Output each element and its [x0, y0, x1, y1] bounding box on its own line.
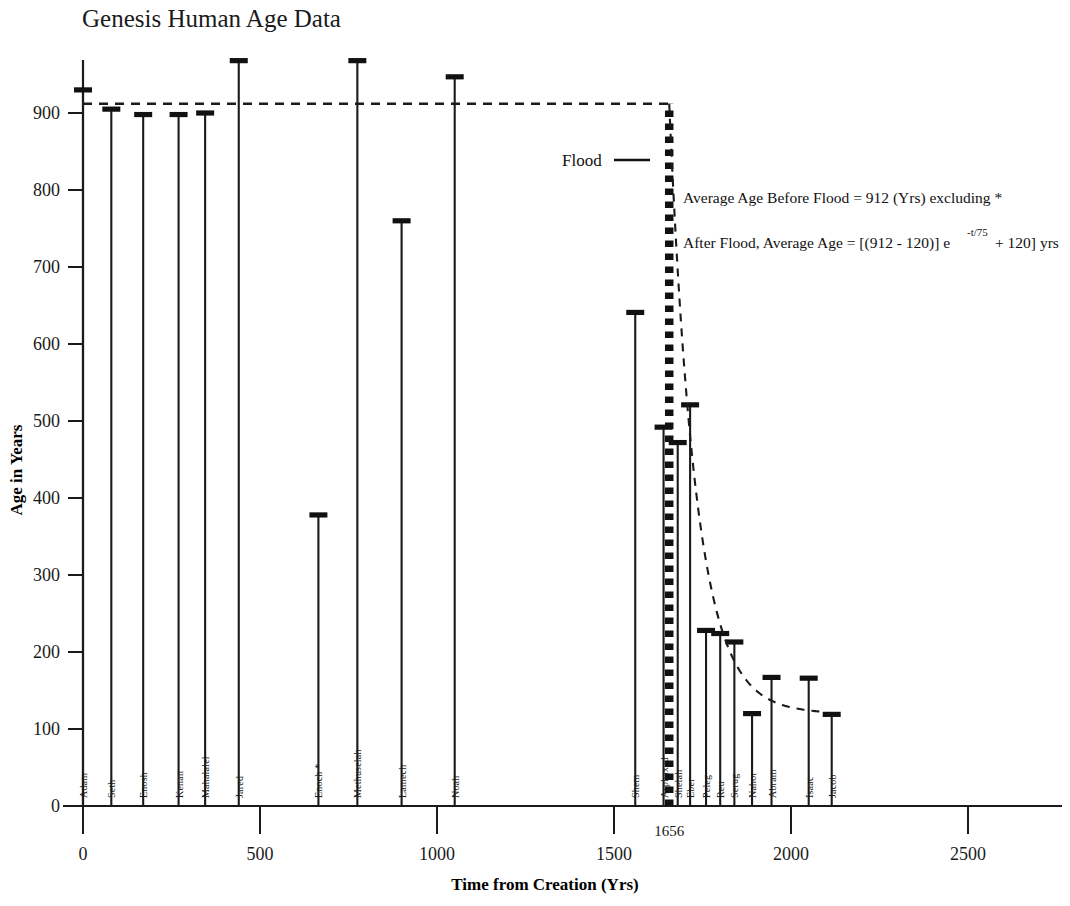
- bar-label: Jared: [234, 776, 245, 798]
- y-tick-label: 800: [33, 180, 60, 200]
- x-tick-label: 0: [79, 844, 88, 864]
- after-flood-formula: After Flood, Average Age = [(912 - 120)]…: [683, 226, 1059, 252]
- x-axis-title: Time from Creation (Yrs): [451, 875, 638, 894]
- bar-label: Seth: [106, 779, 117, 798]
- flood-annotation: Flood: [562, 151, 650, 170]
- average-age-note: Average Age Before Flood = 912 (Yrs) exc…: [683, 189, 1002, 207]
- bar-label: Jacob: [827, 774, 838, 798]
- x-tick-label: 1000: [419, 844, 455, 864]
- bar-label: Nahor: [747, 772, 758, 798]
- reference-lines: [83, 104, 669, 806]
- formula-exponent: -t/75: [967, 226, 988, 238]
- y-tick-label: 100: [33, 719, 60, 739]
- y-tick-label: 300: [33, 565, 60, 585]
- y-tick-label: 700: [33, 257, 60, 277]
- y-tick-label: 600: [33, 334, 60, 354]
- x-axis-ticks: 050010001500200025001656: [79, 806, 987, 864]
- flood-label: Flood: [562, 151, 602, 170]
- x-tick-label: 1500: [596, 844, 632, 864]
- y-axis-title: Age in Years: [7, 424, 26, 515]
- bar-label: Shem: [630, 774, 641, 798]
- x-tick-label: 2000: [773, 844, 809, 864]
- bar-label: Abram: [767, 769, 778, 798]
- bar-label: Reu: [715, 781, 726, 798]
- bar-label: Lamech: [397, 765, 408, 798]
- y-tick-label: 200: [33, 642, 60, 662]
- bar-label: Methuselah: [352, 749, 363, 798]
- bar-label: Noah: [450, 776, 461, 798]
- bar-label: Shelah: [673, 770, 684, 798]
- bar-label: Enosh: [138, 772, 149, 798]
- genesis-age-chart: Genesis Human Age Data Age in Years Time…: [0, 0, 1070, 906]
- x-tick-label-flood-year: 1656: [654, 823, 685, 839]
- bar-label: Serug: [729, 774, 740, 798]
- bar-label: Kenan: [174, 771, 185, 798]
- bar-label: Peleg: [701, 775, 712, 798]
- bar-label: Eber: [685, 778, 696, 798]
- x-tick-label: 2500: [950, 844, 986, 864]
- y-tick-label: 0: [51, 796, 60, 816]
- formula-tail: + 120] yrs: [995, 234, 1059, 251]
- bar-label: Mahalalel: [200, 756, 211, 798]
- y-axis-ticks: 0100200300400500600700800900: [33, 103, 83, 816]
- bar-series: [74, 61, 841, 806]
- y-tick-label: 900: [33, 103, 60, 123]
- bar-labels: AdamSethEnoshKenanMahalalelJaredEnoch *M…: [78, 749, 838, 798]
- chart-title: Genesis Human Age Data: [82, 5, 341, 32]
- x-tick-label: 500: [247, 844, 274, 864]
- bar-label: Isaac: [804, 776, 815, 798]
- formula-lead: After Flood, Average Age = [(912 - 120)]…: [683, 234, 950, 252]
- y-tick-label: 400: [33, 488, 60, 508]
- y-tick-label: 500: [33, 411, 60, 431]
- bar-label: Enoch *: [313, 764, 324, 798]
- bar-label: Adam: [78, 773, 89, 798]
